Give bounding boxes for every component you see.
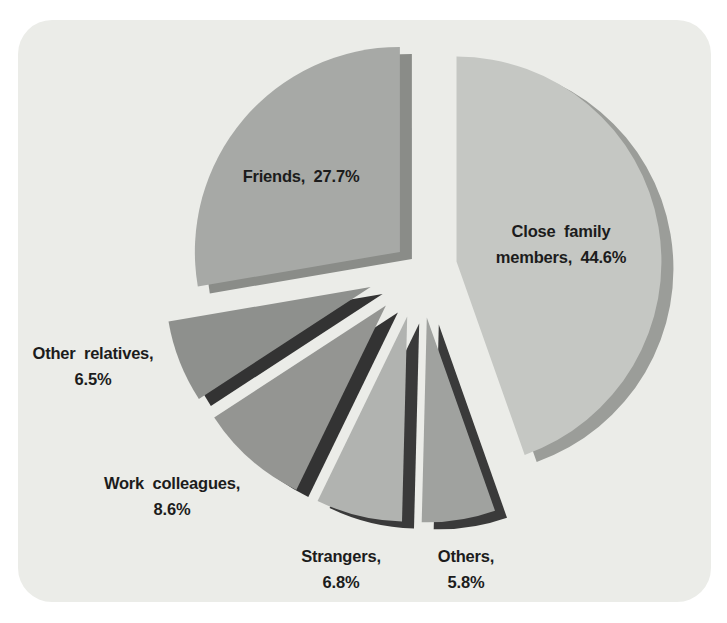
slice-others — [422, 317, 495, 522]
label-strangers: Strangers, 6.8% — [301, 543, 381, 595]
label-work-colleagues-line2: 8.6% — [104, 496, 240, 522]
label-friends-line1: Friends, 27.7% — [243, 163, 360, 189]
label-others-line2: 5.8% — [438, 569, 494, 595]
label-close-family-line1: Close family — [496, 218, 627, 244]
label-strangers-line2: 6.8% — [301, 569, 381, 595]
label-work-colleagues: Work colleagues, 8.6% — [104, 470, 240, 522]
label-work-colleagues-line1: Work colleagues, — [104, 470, 240, 496]
label-others: Others, 5.8% — [438, 543, 494, 595]
pie-chart — [0, 0, 727, 623]
label-strangers-line1: Strangers, — [301, 543, 381, 569]
label-close-family-members: Close family members, 44.6% — [496, 218, 627, 270]
label-friends: Friends, 27.7% — [243, 163, 360, 189]
label-other-relatives-line2: 6.5% — [33, 366, 154, 392]
label-other-relatives: Other relatives, 6.5% — [33, 340, 154, 392]
label-others-line1: Others, — [438, 543, 494, 569]
label-close-family-line2: members, 44.6% — [496, 244, 627, 270]
label-other-relatives-line1: Other relatives, — [33, 340, 154, 366]
